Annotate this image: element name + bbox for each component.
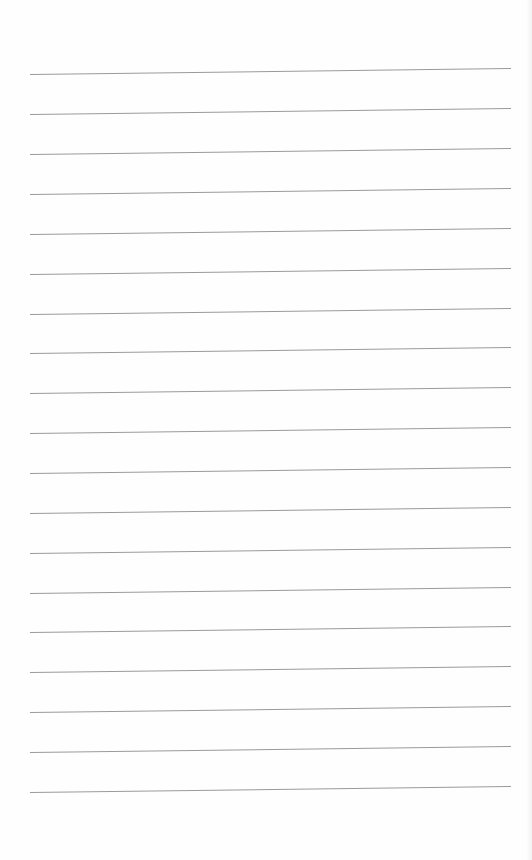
ruled-line — [30, 188, 511, 195]
ruled-line — [30, 706, 511, 713]
ruled-line — [30, 587, 511, 594]
ruled-line — [30, 347, 511, 354]
ruled-line — [30, 308, 511, 315]
page-edge-shadow — [526, 0, 532, 860]
ruled-line — [30, 507, 511, 514]
lined-paper-page — [0, 0, 532, 860]
ruled-line — [30, 746, 511, 753]
ruled-line — [30, 547, 511, 554]
ruled-line — [30, 268, 511, 275]
ruled-line — [30, 427, 511, 434]
ruled-line — [30, 387, 511, 394]
ruled-line — [30, 626, 511, 633]
ruled-line — [30, 786, 511, 793]
ruled-line — [30, 228, 511, 235]
ruled-line — [30, 666, 511, 673]
ruled-line — [30, 148, 511, 155]
ruled-line — [30, 467, 511, 474]
ruled-line — [30, 68, 511, 75]
ruled-line — [30, 108, 511, 115]
